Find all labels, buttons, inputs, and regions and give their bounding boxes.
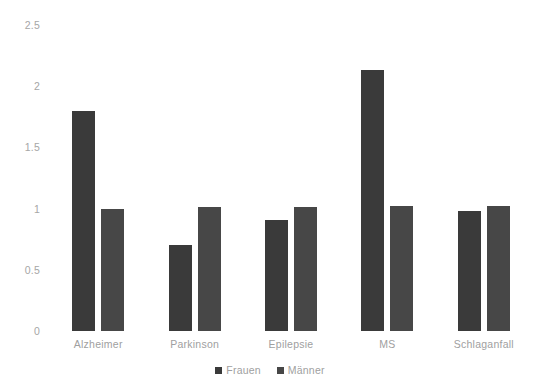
x-axis-label: Alzheimer (50, 334, 146, 356)
x-axis-label: MS (339, 334, 435, 356)
bar-pair (146, 25, 242, 331)
y-axis-tick-label: 0.5 (25, 264, 40, 276)
bar-schlaganfall-frauen[interactable] (458, 211, 481, 331)
x-axis-label: Parkinson (146, 334, 242, 356)
y-axis-tick-label: 2.5 (25, 19, 40, 31)
y-axis: 00.511.522.5 (0, 0, 50, 389)
y-axis-tick-label: 1 (34, 203, 40, 215)
bar-ms-frauen[interactable] (361, 70, 384, 331)
bar-alzheimer-männer[interactable] (101, 209, 124, 331)
legend-swatch-icon (277, 367, 284, 374)
legend-label: Männer (288, 364, 325, 376)
bar-epilepsie-frauen[interactable] (265, 220, 288, 331)
legend-label: Frauen (226, 364, 260, 376)
legend-item-männer[interactable]: Männer (277, 364, 325, 376)
bar-chart: 00.511.522.5 AlzheimerParkinsonEpilepsie… (0, 0, 540, 389)
bar-pair (436, 25, 532, 331)
x-axis-labels: AlzheimerParkinsonEpilepsieMSSchlaganfal… (50, 334, 532, 356)
bar-group (339, 25, 435, 331)
bar-pair (50, 25, 146, 331)
x-axis-label: Epilepsie (243, 334, 339, 356)
bar-group (436, 25, 532, 331)
y-axis-tick-label: 2 (34, 80, 40, 92)
x-axis-label: Schlaganfall (436, 334, 532, 356)
bar-ms-männer[interactable] (390, 206, 413, 331)
bar-epilepsie-männer[interactable] (294, 207, 317, 331)
bar-groups (50, 25, 532, 331)
chart-legend: FrauenMänner (0, 364, 540, 376)
y-axis-tick-label: 1.5 (25, 141, 40, 153)
bar-pair (243, 25, 339, 331)
bar-schlaganfall-männer[interactable] (487, 206, 510, 331)
bar-group (50, 25, 146, 331)
bar-parkinson-männer[interactable] (198, 207, 221, 331)
legend-item-frauen[interactable]: Frauen (215, 364, 260, 376)
bar-group (243, 25, 339, 331)
legend-swatch-icon (215, 367, 222, 374)
bar-alzheimer-frauen[interactable] (72, 111, 95, 331)
y-axis-tick-label: 0 (34, 325, 40, 337)
plot-area (50, 25, 532, 331)
bar-parkinson-frauen[interactable] (169, 245, 192, 331)
bar-pair (339, 25, 435, 331)
bar-group (146, 25, 242, 331)
